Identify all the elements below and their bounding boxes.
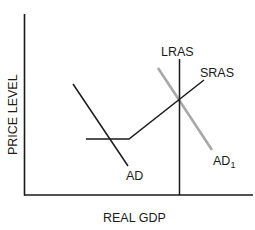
ad-curve — [73, 84, 128, 166]
ad1-label-subscript: 1 — [230, 160, 235, 170]
ad-as-diagram: PRICE LEVEL REAL GDP LRAS SRAS AD AD1 — [0, 0, 255, 230]
lras-label: LRAS — [161, 45, 194, 59]
ad1-label: AD1 — [213, 154, 235, 170]
y-axis-label: PRICE LEVEL — [6, 74, 20, 155]
sras-label: SRAS — [200, 66, 234, 80]
ad-label: AD — [126, 169, 143, 183]
ad1-label-main: AD — [213, 154, 230, 168]
x-axis-label: REAL GDP — [103, 211, 166, 225]
